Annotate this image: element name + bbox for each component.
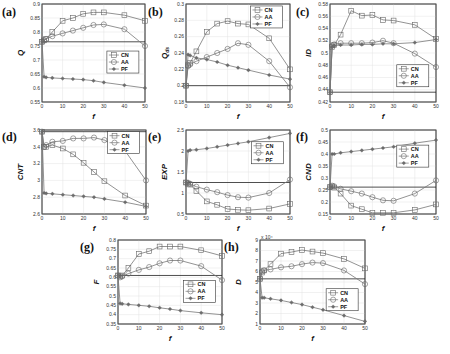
legend-label: AA — [198, 288, 206, 294]
y-tick-label: 0.45 — [318, 139, 328, 145]
y-tick-label: 0.3 — [321, 175, 328, 181]
y-tick-label: 0.18 — [174, 99, 184, 105]
legend-label: CN — [411, 146, 419, 152]
y-tick-label: 0.5 — [321, 127, 328, 133]
legend-label: PF — [411, 80, 419, 86]
panel-label: (h) — [224, 240, 239, 254]
y-tick-label: 0.48 — [318, 62, 328, 68]
x-tick-label: 20 — [80, 103, 86, 109]
x-tick-label: 0 — [259, 325, 262, 331]
legend-label: CN — [122, 133, 130, 139]
panel-label: (g) — [80, 240, 94, 254]
x-tick-label: 0 — [41, 215, 44, 221]
legend: CNAAPF — [252, 142, 284, 164]
y-tick-label: 0.75 — [30, 43, 40, 49]
x-tick-label: 30 — [101, 103, 107, 109]
y-tick-label: 0.22 — [174, 66, 184, 72]
y-tick-label: 3 — [37, 177, 40, 183]
x-tick-label: 30 — [102, 215, 108, 221]
legend-label: CN — [198, 281, 206, 287]
subplot-e: 010203040500.511.522.5CNAAPF(e)fEXP — [148, 127, 293, 233]
x-axis-label: f — [237, 112, 241, 121]
y-tick-label: 0.35 — [106, 321, 116, 327]
legend-label: PF — [198, 295, 206, 301]
y-tick-label: 3 — [255, 300, 258, 306]
x-tick-label: 0 — [185, 215, 188, 221]
legend-label: AA — [122, 140, 130, 146]
y-tick-label: 0.26 — [174, 33, 184, 39]
y-tick-label: 0.65 — [106, 265, 116, 271]
x-tick-label: 40 — [198, 325, 204, 331]
y-tick-label: 0.65 — [30, 71, 40, 77]
y-tick-label: 0.7 — [109, 255, 116, 261]
y-tick-label: 0.7 — [33, 57, 40, 63]
y-tick-label: 0.5 — [177, 211, 184, 217]
y-tick-label: 2.6 — [33, 211, 40, 217]
y-tick-label: 0.35 — [318, 163, 328, 169]
legend-label: PF — [411, 160, 419, 166]
panel-label: (e) — [148, 130, 161, 144]
x-tick-label: 10 — [60, 215, 66, 221]
x-tick-label: 10 — [60, 103, 66, 109]
x-tick-label: 50 — [287, 215, 293, 221]
x-tick-label: 10 — [204, 103, 210, 109]
x-tick-label: 10 — [348, 215, 354, 221]
panel-label: (b) — [148, 5, 163, 19]
y-axis-label: D — [234, 279, 243, 285]
x-tick-label: 50 — [219, 325, 225, 331]
x-tick-label: 10 — [278, 325, 284, 331]
x-tick-label: 50 — [143, 215, 149, 221]
x-tick-label: 20 — [299, 325, 305, 331]
subplot-g: 010203040500.350.40.450.50.550.60.650.70… — [80, 237, 225, 343]
y-tick-label: 0.44 — [318, 86, 328, 92]
x-tick-label: 40 — [266, 215, 272, 221]
y-multiplier: x 10⁴ — [261, 234, 273, 240]
y-tick-label: 3.4 — [33, 144, 40, 150]
x-axis-label: f — [311, 334, 315, 343]
y-tick-label: 0.46 — [318, 74, 328, 80]
y-axis-label: EXP — [160, 163, 169, 180]
y-axis-label: Q — [16, 49, 25, 56]
y-tick-label: 0.56 — [318, 13, 328, 19]
y-tick-label: 0.85 — [30, 15, 40, 21]
y-tick-label: 0.55 — [106, 283, 116, 289]
panel-label: (f) — [296, 130, 308, 144]
x-tick-label: 0 — [329, 103, 332, 109]
y-tick-label: 0.2 — [321, 199, 328, 205]
x-tick-label: 20 — [81, 215, 87, 221]
y-axis-label: CND — [304, 163, 313, 181]
legend: CNAAPF — [108, 132, 140, 154]
y-axis-label: ID — [304, 49, 313, 57]
y-tick-label: 0.15 — [318, 211, 328, 217]
legend-label: AA — [264, 14, 272, 20]
y-tick-label: 0.45 — [106, 302, 116, 308]
x-tick-label: 30 — [391, 103, 397, 109]
y-tick-label: 1 — [181, 190, 184, 196]
subplot-a: 010203040500.550.60.650.70.750.80.850.9C… — [2, 1, 148, 121]
legend-label: PF — [121, 66, 129, 72]
y-axis-label: F — [92, 278, 101, 284]
subplot-c: 010203040500.420.440.460.480.50.520.540.… — [296, 1, 439, 121]
y-tick-label: 0.8 — [109, 237, 116, 243]
legend-label: PF — [122, 147, 130, 153]
subplot-f: 010203040500.150.20.250.30.350.40.450.5C… — [296, 127, 439, 233]
legend-label: PF — [340, 304, 348, 310]
y-tick-label: 1 — [255, 321, 258, 327]
x-tick-label: 40 — [122, 215, 128, 221]
y-axis-label: CNT — [16, 163, 25, 181]
x-tick-label: 0 — [329, 215, 332, 221]
y-tick-label: 9 — [255, 237, 258, 243]
y-tick-label: 0.24 — [174, 50, 184, 56]
legend-label: AA — [266, 150, 274, 156]
legend-label: PF — [266, 157, 274, 163]
x-axis-label: f — [237, 224, 241, 233]
x-axis-label: f — [382, 112, 386, 121]
y-tick-label: 0.3 — [177, 1, 184, 7]
legend: CNAAPF — [397, 65, 429, 87]
x-tick-label: 30 — [178, 325, 184, 331]
y-tick-label: 1.5 — [177, 169, 184, 175]
legend: CNAAPF — [250, 6, 282, 28]
subplot-b: 010203040500.180.20.220.240.260.280.3CNA… — [148, 1, 293, 121]
x-tick-label: 0 — [117, 325, 120, 331]
y-tick-label: 0.4 — [109, 311, 116, 317]
